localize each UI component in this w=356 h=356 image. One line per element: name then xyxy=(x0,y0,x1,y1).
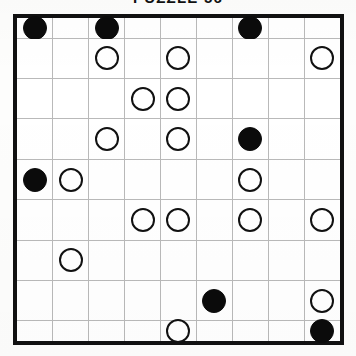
grid-cell-r6-c2[interactable] xyxy=(53,200,89,240)
white-circle-icon xyxy=(131,87,155,111)
grid-cell-r2-c8[interactable] xyxy=(268,38,304,78)
grid-cell-r6-c8[interactable] xyxy=(268,200,304,240)
white-circle-icon xyxy=(166,127,190,151)
grid-row xyxy=(17,200,340,240)
grid-cell-r6-c4[interactable] xyxy=(125,200,161,240)
grid-cell-r9-c2[interactable] xyxy=(53,321,89,341)
grid-cell-r9-c3[interactable] xyxy=(89,321,125,341)
white-circle-icon xyxy=(310,289,334,313)
grid-cell-r4-c9[interactable] xyxy=(304,119,340,159)
grid-cell-r2-c4[interactable] xyxy=(125,38,161,78)
grid-cell-r6-c7[interactable] xyxy=(232,200,268,240)
grid-cell-r5-c8[interactable] xyxy=(268,159,304,199)
grid-cell-r3-c9[interactable] xyxy=(304,79,340,119)
grid-cell-r8-c3[interactable] xyxy=(89,280,125,320)
grid-cell-r1-c4[interactable] xyxy=(125,18,161,38)
grid-cell-r9-c7[interactable] xyxy=(232,321,268,341)
black-circle-icon xyxy=(310,319,334,343)
grid-cell-r8-c8[interactable] xyxy=(268,280,304,320)
grid-cell-r3-c6[interactable] xyxy=(196,79,232,119)
grid-cell-r3-c7[interactable] xyxy=(232,79,268,119)
grid-cell-r4-c3[interactable] xyxy=(89,119,125,159)
grid-cell-r1-c2[interactable] xyxy=(53,18,89,38)
grid-cell-r4-c1[interactable] xyxy=(17,119,53,159)
grid-cell-r2-c6[interactable] xyxy=(196,38,232,78)
grid-cell-r1-c9[interactable] xyxy=(304,18,340,38)
white-circle-icon xyxy=(59,248,83,272)
grid-cell-r7-c3[interactable] xyxy=(89,240,125,280)
grid-cell-r5-c3[interactable] xyxy=(89,159,125,199)
grid-cell-r3-c3[interactable] xyxy=(89,79,125,119)
grid-cell-r9-c4[interactable] xyxy=(125,321,161,341)
grid-cell-r4-c6[interactable] xyxy=(196,119,232,159)
grid-cell-r7-c5[interactable] xyxy=(161,240,197,280)
grid-cell-r4-c5[interactable] xyxy=(161,119,197,159)
grid-cell-r3-c5[interactable] xyxy=(161,79,197,119)
grid-cell-r2-c1[interactable] xyxy=(17,38,53,78)
grid-cell-r2-c5[interactable] xyxy=(161,38,197,78)
grid-cell-r1-c5[interactable] xyxy=(161,18,197,38)
grid-row xyxy=(17,18,340,38)
grid-cell-r9-c6[interactable] xyxy=(196,321,232,341)
grid-cell-r7-c2[interactable] xyxy=(53,240,89,280)
grid-cell-r2-c3[interactable] xyxy=(89,38,125,78)
grid-cell-r8-c9[interactable] xyxy=(304,280,340,320)
white-circle-icon xyxy=(310,46,334,70)
grid-cell-r6-c3[interactable] xyxy=(89,200,125,240)
white-circle-icon xyxy=(95,46,119,70)
grid-cell-r4-c4[interactable] xyxy=(125,119,161,159)
grid-cell-r9-c8[interactable] xyxy=(268,321,304,341)
grid-cell-r1-c1[interactable] xyxy=(17,18,53,38)
grid-cell-r9-c1[interactable] xyxy=(17,321,53,341)
grid-row xyxy=(17,240,340,280)
grid-cell-r7-c7[interactable] xyxy=(232,240,268,280)
grid-cell-r3-c1[interactable] xyxy=(17,79,53,119)
grid-cell-r1-c6[interactable] xyxy=(196,18,232,38)
grid-table xyxy=(17,18,340,341)
grid-cell-r6-c9[interactable] xyxy=(304,200,340,240)
grid-cell-r9-c5[interactable] xyxy=(161,321,197,341)
grid-cell-r1-c8[interactable] xyxy=(268,18,304,38)
page-title: PUZZLE 56 xyxy=(0,0,356,5)
white-circle-icon xyxy=(95,127,119,151)
grid-cell-r7-c4[interactable] xyxy=(125,240,161,280)
grid-cell-r5-c4[interactable] xyxy=(125,159,161,199)
grid-cell-r9-c9[interactable] xyxy=(304,321,340,341)
grid-cell-r4-c8[interactable] xyxy=(268,119,304,159)
grid-row xyxy=(17,119,340,159)
grid-cell-r2-c9[interactable] xyxy=(304,38,340,78)
grid-cell-r8-c5[interactable] xyxy=(161,280,197,320)
puzzle-grid[interactable] xyxy=(13,14,344,345)
grid-cell-r5-c2[interactable] xyxy=(53,159,89,199)
grid-body xyxy=(17,18,340,341)
grid-cell-r5-c5[interactable] xyxy=(161,159,197,199)
grid-cell-r5-c1[interactable] xyxy=(17,159,53,199)
grid-cell-r5-c9[interactable] xyxy=(304,159,340,199)
grid-cell-r7-c6[interactable] xyxy=(196,240,232,280)
grid-cell-r6-c5[interactable] xyxy=(161,200,197,240)
grid-cell-r8-c4[interactable] xyxy=(125,280,161,320)
grid-cell-r3-c4[interactable] xyxy=(125,79,161,119)
white-circle-icon xyxy=(238,208,262,232)
grid-cell-r8-c1[interactable] xyxy=(17,280,53,320)
grid-cell-r2-c7[interactable] xyxy=(232,38,268,78)
grid-cell-r4-c7[interactable] xyxy=(232,119,268,159)
grid-cell-r4-c2[interactable] xyxy=(53,119,89,159)
grid-cell-r8-c6[interactable] xyxy=(196,280,232,320)
grid-cell-r3-c2[interactable] xyxy=(53,79,89,119)
grid-row xyxy=(17,280,340,320)
grid-cell-r8-c7[interactable] xyxy=(232,280,268,320)
grid-cell-r6-c1[interactable] xyxy=(17,200,53,240)
grid-cell-r7-c1[interactable] xyxy=(17,240,53,280)
grid-cell-r7-c8[interactable] xyxy=(268,240,304,280)
grid-cell-r5-c6[interactable] xyxy=(196,159,232,199)
grid-cell-r2-c2[interactable] xyxy=(53,38,89,78)
puzzle-page: PUZZLE 56 xyxy=(0,0,356,356)
grid-cell-r1-c7[interactable] xyxy=(232,18,268,38)
grid-cell-r6-c6[interactable] xyxy=(196,200,232,240)
grid-cell-r7-c9[interactable] xyxy=(304,240,340,280)
grid-cell-r8-c2[interactable] xyxy=(53,280,89,320)
grid-cell-r3-c8[interactable] xyxy=(268,79,304,119)
grid-cell-r5-c7[interactable] xyxy=(232,159,268,199)
grid-cell-r1-c3[interactable] xyxy=(89,18,125,38)
